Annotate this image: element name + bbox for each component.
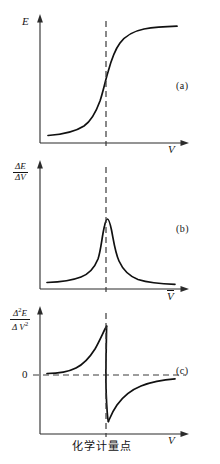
panel-b-x-axis-arrow-icon [181,286,190,292]
panel-c-numerator-var: E [22,308,28,318]
panel-c-denominator-exponent: 2 [25,320,28,327]
panel-b-fraction: ΔE ΔV [13,162,28,182]
panel-c-y-axis-arrow-icon [37,306,43,315]
panel-c-curve-negative [108,379,175,422]
panel-a-x-axis-label: V [168,144,175,155]
panel-c-group [33,306,189,437]
panel-c-fraction-denominator: Δ V2 [10,320,30,333]
panel-c-fraction-numerator: Δ2E [10,306,30,320]
panel-a-y-axis-arrow-icon [37,14,43,23]
panel-c-x-axis-label: V [168,435,175,446]
panel-c-denominator-text: Δ V [12,322,25,332]
panel-a-curve [48,26,177,135]
panel-b-fraction-denominator: ΔV [13,173,28,183]
panel-b-x-axis-label: V [167,290,174,302]
panel-c-y-axis-label: Δ2E Δ V2 [10,306,30,332]
equivalence-point-caption: 化学计量点 [72,441,132,452]
panel-a-tag: (a) [176,81,189,91]
panel-b-y-axis-label: ΔE ΔV [13,162,28,182]
panel-c-fraction: Δ2E Δ V2 [10,306,30,332]
titration-figure: E V (a) ΔE ΔV V (b) Δ2E Δ V2 0 V (c) 化学计… [0,0,220,464]
panel-b-tag: (b) [176,224,189,234]
panel-c-curve-positive [47,326,107,373]
panel-b-x-axis-label-text: V [167,290,174,302]
panel-a-x-axis-arrow-icon [181,140,190,146]
panel-c-x-axis-arrow-icon [181,431,190,437]
panel-b-curve [47,219,175,284]
panel-b-group [37,160,189,292]
panel-a-group [37,14,189,146]
panel-c-zero-label: 0 [22,369,28,380]
panel-b-y-axis-arrow-icon [37,160,43,169]
panel-c-tag: (c) [176,366,189,376]
panel-a-y-axis-label: E [22,16,29,27]
